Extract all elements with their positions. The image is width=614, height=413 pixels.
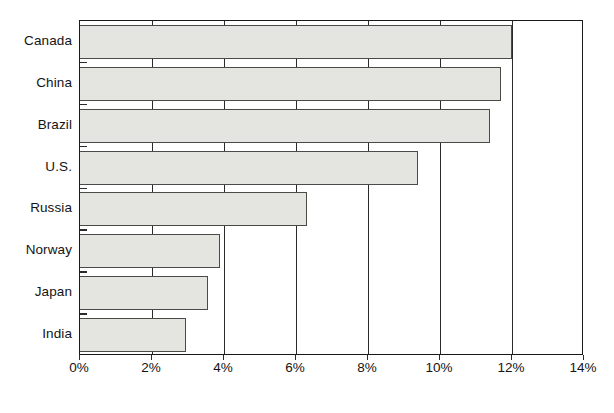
x-axis-tick-label-6pct: 6% — [285, 360, 305, 376]
x-axis-tick-label-0pct: 0% — [69, 360, 89, 376]
gridline-12pct — [512, 21, 513, 354]
bar-russia[interactable] — [80, 192, 307, 226]
y-axis-tick-5 — [80, 229, 87, 231]
x-axis-tick-label-4pct: 4% — [213, 360, 233, 376]
bar-brazil[interactable] — [80, 109, 490, 143]
y-axis-label-canada: Canada — [0, 34, 72, 48]
x-axis-tick-mark-0pct — [79, 355, 80, 360]
y-axis-tick-2 — [80, 104, 87, 106]
x-axis-tick-mark-12pct — [511, 355, 512, 360]
bar-china[interactable] — [80, 67, 501, 101]
y-axis-label-us: U.S. — [0, 160, 72, 174]
y-axis-label-norway: Norway — [0, 243, 72, 257]
bar-us[interactable] — [80, 151, 418, 185]
bar-chart: Canada China Brazil U.S. Russia Norway J… — [0, 0, 614, 413]
y-axis-label-russia: Russia — [0, 201, 72, 215]
y-axis-label-japan: Japan — [0, 285, 72, 299]
x-axis-tick-labels: 0%2%4%6%8%10%12%14% — [79, 360, 583, 386]
x-axis-tick-mark-6pct — [295, 355, 296, 360]
y-axis-tick-4 — [80, 188, 87, 190]
x-axis-tick-mark-8pct — [367, 355, 368, 360]
x-axis-tick-label-8pct: 8% — [357, 360, 377, 376]
x-axis-tick-label-10pct: 10% — [425, 360, 452, 376]
x-axis-tick-mark-14pct — [583, 355, 584, 360]
y-axis-tick-6 — [80, 271, 87, 273]
y-axis-tick-7 — [80, 313, 87, 315]
y-axis-label-india: India — [0, 327, 72, 341]
x-axis-tick-mark-4pct — [223, 355, 224, 360]
y-axis-label-brazil: Brazil — [0, 118, 72, 132]
y-axis-label-china: China — [0, 76, 72, 90]
x-axis-tick-mark-2pct — [151, 355, 152, 360]
x-axis-tick-label-12pct: 12% — [497, 360, 524, 376]
x-axis-tick-mark-10pct — [439, 355, 440, 360]
y-axis-tick-3 — [80, 146, 87, 148]
x-axis-tick-label-2pct: 2% — [141, 360, 161, 376]
plot-area — [79, 20, 583, 355]
bar-norway[interactable] — [80, 234, 220, 268]
plot-inner — [80, 21, 582, 354]
bar-india[interactable] — [80, 318, 186, 352]
x-axis-tick-label-14pct: 14% — [569, 360, 596, 376]
y-axis-category-labels: Canada China Brazil U.S. Russia Norway J… — [0, 20, 72, 355]
bar-japan[interactable] — [80, 276, 208, 310]
bar-canada[interactable] — [80, 25, 512, 59]
y-axis-tick-1 — [80, 62, 87, 64]
